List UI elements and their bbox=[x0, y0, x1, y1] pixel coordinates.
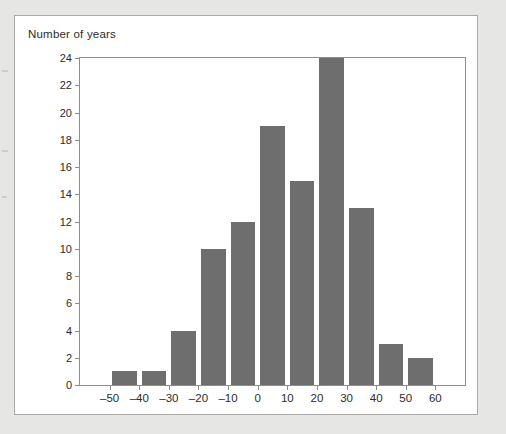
x-axis-tick-label: –20 bbox=[189, 392, 208, 404]
y-axis-tick-label: 0 bbox=[66, 379, 72, 391]
y-axis-tick-label: 10 bbox=[60, 243, 72, 255]
x-axis-tick-label: 10 bbox=[281, 392, 294, 404]
x-axis-tick-mark bbox=[317, 385, 318, 390]
plot-area: 024681012141618202224 –50–40–30–20–10010… bbox=[79, 57, 466, 386]
x-axis-tick-mark bbox=[376, 385, 377, 390]
x-axis-tick-label: –10 bbox=[218, 392, 237, 404]
x-axis-tick-label: –50 bbox=[100, 392, 119, 404]
histogram-bar bbox=[408, 358, 433, 385]
x-axis-tick-label: 30 bbox=[340, 392, 353, 404]
y-axis-tick-label: 22 bbox=[60, 79, 72, 91]
chart-axis-title: Number of years bbox=[28, 28, 116, 40]
histogram-bar bbox=[349, 208, 374, 385]
histogram-bars bbox=[80, 58, 465, 385]
x-axis-tick-mark bbox=[435, 385, 436, 390]
page-background: Number of years 024681012141618202224 –5… bbox=[0, 0, 506, 434]
histogram-bar bbox=[379, 344, 404, 385]
x-axis-tick-mark bbox=[347, 385, 348, 390]
scan-artifact-mark bbox=[2, 70, 8, 72]
histogram-bar bbox=[171, 331, 196, 386]
x-axis-tick-mark bbox=[169, 385, 170, 390]
x-axis-tick-mark bbox=[228, 385, 229, 390]
x-axis-tick-mark bbox=[198, 385, 199, 390]
y-axis-tick-mark bbox=[75, 385, 80, 386]
y-axis-tick-label: 18 bbox=[60, 134, 72, 146]
histogram-bar bbox=[112, 371, 137, 385]
y-axis-tick-label: 6 bbox=[66, 297, 72, 309]
scan-artifact-mark bbox=[2, 196, 7, 198]
scan-artifact-mark bbox=[2, 150, 8, 152]
x-axis-tick-label: 50 bbox=[399, 392, 412, 404]
x-axis-tick-label: 0 bbox=[254, 392, 260, 404]
y-axis-tick-label: 24 bbox=[60, 52, 72, 64]
histogram-bar bbox=[201, 249, 226, 385]
histogram-bar bbox=[142, 371, 167, 385]
figure-card: Number of years 024681012141618202224 –5… bbox=[14, 15, 478, 415]
x-axis-tick-mark bbox=[258, 385, 259, 390]
y-axis-tick-label: 20 bbox=[60, 107, 72, 119]
x-axis-tick-label: –30 bbox=[159, 392, 178, 404]
histogram-bar bbox=[319, 58, 344, 385]
y-axis-tick-label: 8 bbox=[66, 270, 72, 282]
y-axis-tick-label: 14 bbox=[60, 188, 72, 200]
x-axis-tick-label: 40 bbox=[370, 392, 383, 404]
y-axis-tick-label: 12 bbox=[60, 216, 72, 228]
histogram-bar bbox=[290, 181, 315, 385]
x-axis-tick-mark bbox=[406, 385, 407, 390]
histogram-bar bbox=[260, 126, 285, 385]
x-axis-tick-mark bbox=[110, 385, 111, 390]
x-axis-tick-label: 60 bbox=[429, 392, 442, 404]
x-axis-tick-label: 20 bbox=[311, 392, 324, 404]
x-axis-tick-mark bbox=[139, 385, 140, 390]
y-axis-tick-label: 2 bbox=[66, 352, 72, 364]
y-axis-tick-label: 4 bbox=[66, 325, 72, 337]
y-axis-tick-label: 16 bbox=[60, 161, 72, 173]
x-axis-tick-mark bbox=[287, 385, 288, 390]
x-axis-tick-label: –40 bbox=[130, 392, 149, 404]
histogram-bar bbox=[231, 222, 256, 386]
